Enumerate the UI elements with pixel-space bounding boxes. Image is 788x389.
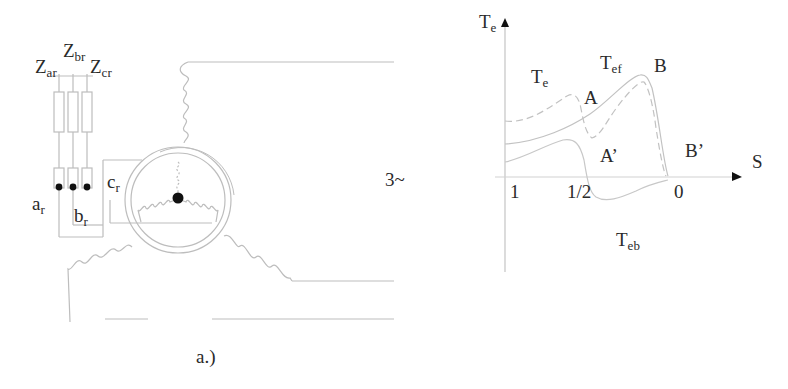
label-terminal-b: br [74, 206, 88, 228]
label-terminal-a: ar [32, 194, 45, 216]
rotor-winding-top [177, 162, 179, 196]
stator-winding-left [68, 245, 132, 322]
annotation-B-prime: B’ [685, 141, 704, 160]
rotor-winding-right [181, 200, 218, 222]
rotor-winding-left [138, 200, 175, 222]
rotor-neutral-dot [173, 193, 184, 204]
figure-caption: a.) [196, 346, 216, 368]
x-tick-0: 0 [674, 182, 684, 201]
annotation-B: B [654, 56, 667, 75]
x-axis-label: S [752, 152, 763, 171]
annotation-A: A [584, 88, 598, 107]
label-impedance-b: Zbr [63, 41, 85, 63]
annotation-Tef: Tef [600, 53, 622, 75]
impedance-resistors [52, 74, 93, 188]
label-supply: 3~ [385, 170, 405, 189]
x-axis-arrow-icon [732, 172, 742, 181]
y-axis-label: Te [479, 12, 496, 34]
annotation-A-prime: A’ [600, 146, 618, 165]
annotation-Teb: Teb [616, 230, 640, 252]
annotation-Te: Te [531, 67, 548, 89]
y-axis-arrow-icon [501, 18, 509, 27]
label-impedance-a: Zar [35, 57, 57, 79]
x-tick-half: 1/2 [567, 182, 591, 201]
stator-winding-top [180, 62, 188, 143]
label-impedance-c: Zcr [90, 57, 112, 79]
x-tick-1: 1 [510, 182, 520, 201]
stator-winding-right [224, 235, 292, 281]
label-terminal-c: cr [107, 172, 120, 194]
